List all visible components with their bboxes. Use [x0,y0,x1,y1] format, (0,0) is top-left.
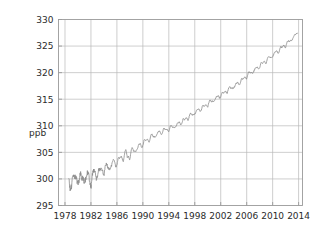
y-tick-label: 325 [36,41,53,51]
chart-container: 2953003053103153203253301978198219861990… [0,0,327,241]
y-tick-label: 330 [36,15,53,25]
x-tick-label: 1978 [54,211,77,221]
y-tick-label: 300 [36,174,53,184]
x-tick-label: 2002 [209,211,232,221]
y-tick-label: 315 [36,95,53,105]
y-tick-label: 320 [36,68,53,78]
x-tick-label: 1994 [157,211,180,221]
y-tick-label: 295 [36,201,53,211]
x-tick-label: 1990 [131,211,154,221]
x-tick-label: 1982 [79,211,102,221]
x-tick-label: 1998 [183,211,206,221]
x-tick-label: 2014 [287,211,310,221]
x-tick-label: 2010 [261,211,284,221]
y-tick-label: 305 [36,148,53,158]
x-tick-label: 2006 [235,211,258,221]
y-axis-title: ppb [29,128,46,138]
line-chart: 2953003053103153203253301978198219861990… [0,0,327,241]
x-tick-label: 1986 [105,211,128,221]
